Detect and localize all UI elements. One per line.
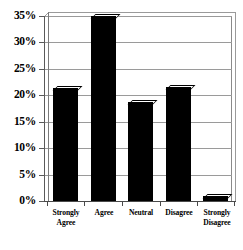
x-axis-label-agree-line1: Agree — [83, 208, 125, 218]
y-tick-15 — [39, 122, 44, 123]
y-axis-label-35: 35% — [0, 10, 36, 22]
y-axis-label-15: 15% — [0, 116, 36, 128]
y-axis-label-10: 10% — [0, 142, 36, 154]
x-tick-3 — [160, 201, 161, 206]
bar-agree — [91, 16, 116, 201]
y-tick-35 — [39, 16, 44, 17]
x-tick-0 — [47, 201, 48, 206]
x-tick-2 — [122, 201, 123, 206]
x-axis-label-neutral: Neutral — [120, 208, 162, 218]
x-axis-line — [44, 201, 236, 202]
bar-neutral — [128, 102, 153, 201]
bar-disagree — [166, 87, 191, 201]
x-axis-label-strongly-agree-line1: Strongly — [45, 208, 87, 218]
x-tick-5 — [234, 201, 235, 206]
y-tick-25 — [39, 69, 44, 70]
y-axis-rail — [44, 16, 45, 202]
plot-frame-right-back — [235, 12, 236, 201]
x-axis-label-disagree: Disagree — [158, 208, 200, 218]
y-tick-10 — [39, 148, 44, 149]
x-axis-label-agree: Agree — [83, 208, 125, 218]
x-axis-label-strongly-disagree-line2: Disagree — [195, 218, 239, 228]
x-axis-label-strongly-agree-line2: Agree — [45, 218, 87, 228]
x-axis-label-disagree-line1: Disagree — [158, 208, 200, 218]
x-axis-label-strongly-agree: Strongly Agree — [45, 208, 87, 228]
x-axis-label-neutral-line1: Neutral — [120, 208, 162, 218]
x-axis-label-strongly-disagree-line1: Strongly — [195, 208, 239, 218]
x-axis-label-strongly-disagree: Strongly Disagree — [195, 208, 239, 228]
y-axis-rail-back — [48, 12, 49, 202]
gridline-35 — [44, 16, 232, 17]
y-axis-label-30: 30% — [0, 36, 36, 48]
y-tick-5 — [39, 175, 44, 176]
y-axis-label-25: 25% — [0, 63, 36, 75]
bar-strongly-agree — [53, 88, 78, 201]
y-axis-label-0: 0% — [0, 195, 36, 207]
gridline-30 — [44, 42, 232, 43]
y-axis-label-5: 5% — [0, 169, 36, 181]
y-axis-label-20: 20% — [0, 89, 36, 101]
x-tick-1 — [84, 201, 85, 206]
plot-frame-top-back — [48, 12, 236, 13]
y-tick-0 — [39, 201, 44, 202]
y-tick-20 — [39, 95, 44, 96]
x-tick-4 — [197, 201, 198, 206]
y-tick-30 — [39, 42, 44, 43]
plot-frame-right — [231, 16, 232, 201]
bar-chart: 35% 30% 25% 20% 15% 10% 5% 0% Strongly A… — [0, 0, 243, 250]
gridline-25 — [44, 69, 232, 70]
